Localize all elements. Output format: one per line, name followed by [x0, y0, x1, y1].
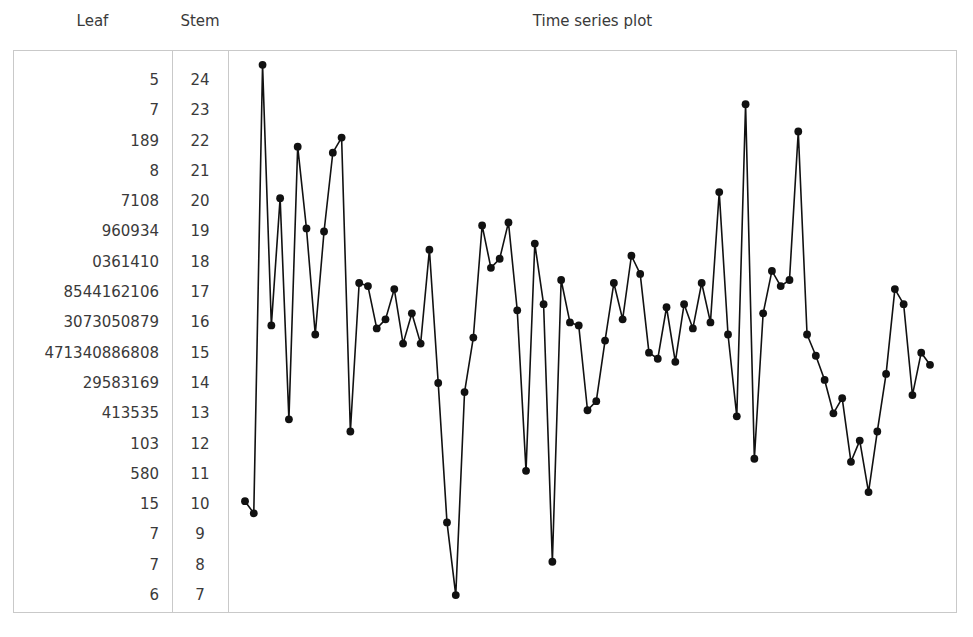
- stem-cell: 22: [172, 126, 228, 156]
- data-point: [320, 228, 328, 236]
- data-point: [882, 370, 890, 378]
- data-point: [338, 134, 346, 142]
- leaf-cell: 103: [13, 429, 172, 459]
- data-point: [461, 388, 469, 396]
- data-point: [575, 322, 583, 330]
- data-point: [873, 428, 881, 436]
- leaf-column: 5718987108960934036141085441621063073050…: [13, 50, 172, 610]
- leaf-cell: 960934: [13, 216, 172, 246]
- data-point: [619, 315, 627, 323]
- leaf-cell: 189: [13, 126, 172, 156]
- stem-cell: 7: [172, 580, 228, 610]
- leaf-cell: 413535: [13, 398, 172, 428]
- stem-cell: 8: [172, 550, 228, 580]
- data-point: [373, 325, 381, 333]
- data-point: [443, 518, 451, 526]
- leaf-cell: 7: [13, 95, 172, 125]
- data-point: [768, 267, 776, 275]
- data-point: [311, 331, 319, 339]
- data-point: [865, 488, 873, 496]
- data-point: [496, 255, 504, 263]
- data-point: [434, 379, 442, 387]
- data-point: [821, 376, 829, 384]
- data-point: [856, 437, 864, 445]
- data-point: [759, 309, 767, 317]
- data-point: [926, 361, 934, 369]
- data-point: [259, 61, 267, 69]
- data-point: [750, 455, 758, 463]
- stem-cell: 23: [172, 95, 228, 125]
- leaf-column-header: Leaf: [13, 12, 172, 30]
- data-point: [478, 222, 486, 230]
- data-point: [628, 252, 636, 260]
- data-point: [715, 188, 723, 196]
- data-point: [803, 331, 811, 339]
- data-point: [698, 279, 706, 287]
- data-point: [399, 340, 407, 348]
- data-point: [469, 334, 477, 342]
- data-point: [267, 322, 275, 330]
- data-point: [610, 279, 618, 287]
- data-point: [487, 264, 495, 272]
- data-point: [285, 415, 293, 423]
- data-point: [276, 194, 284, 202]
- data-point: [241, 497, 249, 505]
- plot-title: Time series plot: [228, 12, 957, 30]
- data-point: [777, 282, 785, 290]
- data-point: [680, 300, 688, 308]
- data-point: [390, 285, 398, 293]
- data-point: [329, 149, 337, 157]
- stem-cell: 24: [172, 65, 228, 95]
- stem-cell: 13: [172, 398, 228, 428]
- leaf-cell: 7108: [13, 186, 172, 216]
- stem-cell: 9: [172, 519, 228, 549]
- leaf-cell: 29583169: [13, 368, 172, 398]
- data-point: [838, 394, 846, 402]
- data-point: [355, 279, 363, 287]
- stem-cell: 14: [172, 368, 228, 398]
- series-line: [245, 65, 930, 595]
- stem-cell: 15: [172, 338, 228, 368]
- data-point: [522, 467, 530, 475]
- leaf-cell: 5: [13, 65, 172, 95]
- stem-cell: 16: [172, 307, 228, 337]
- data-point: [654, 355, 662, 363]
- stem-column: 242322212019181716151413121110987: [172, 50, 228, 610]
- data-point: [566, 319, 574, 327]
- data-point: [592, 397, 600, 405]
- data-point: [671, 358, 679, 366]
- leaf-cell: 8: [13, 156, 172, 186]
- data-point: [601, 337, 609, 345]
- data-point: [417, 340, 425, 348]
- leaf-cell: 471340886808: [13, 338, 172, 368]
- data-point: [891, 285, 899, 293]
- data-point: [513, 306, 521, 314]
- stem-cell: 12: [172, 429, 228, 459]
- leaf-cell: 3073050879: [13, 307, 172, 337]
- data-point: [636, 270, 644, 278]
- data-point: [645, 349, 653, 357]
- data-point: [900, 300, 908, 308]
- stem-cell: 18: [172, 247, 228, 277]
- data-point: [364, 282, 372, 290]
- stemplot-timeseries-figure: Leaf Stem Time series plot 5718987108960…: [0, 0, 973, 637]
- stem-column-header: Stem: [172, 12, 228, 30]
- leaf-cell: 8544162106: [13, 277, 172, 307]
- data-point: [548, 558, 556, 566]
- data-point: [917, 349, 925, 357]
- data-point: [707, 319, 715, 327]
- leaf-cell: 7: [13, 550, 172, 580]
- data-point: [786, 276, 794, 284]
- data-point: [663, 303, 671, 311]
- leaf-cell: 580: [13, 459, 172, 489]
- data-point: [346, 428, 354, 436]
- data-point: [250, 509, 258, 517]
- data-point: [294, 143, 302, 151]
- stem-cell: 20: [172, 186, 228, 216]
- time-series-plot: [229, 51, 956, 612]
- data-point: [426, 246, 434, 254]
- data-point: [812, 352, 820, 360]
- data-point: [733, 412, 741, 420]
- data-point: [531, 240, 539, 248]
- stem-cell: 11: [172, 459, 228, 489]
